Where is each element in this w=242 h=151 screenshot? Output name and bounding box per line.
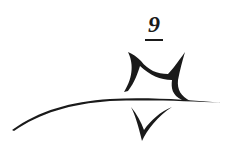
star-bottom-icon [131, 107, 172, 141]
swoosh-icon [12, 98, 222, 131]
star-swoosh-icon [0, 0, 242, 151]
star-top-icon [124, 52, 190, 101]
